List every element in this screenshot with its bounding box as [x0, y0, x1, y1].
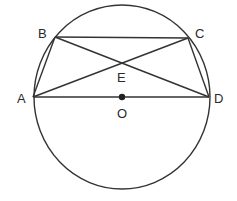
- label-d: D: [214, 91, 223, 106]
- segment-bc: [55, 37, 188, 38]
- diagonal-ac: [33, 38, 188, 97]
- diagonal-bd: [55, 37, 209, 97]
- segment-ab: [33, 37, 55, 97]
- label-o: O: [117, 106, 127, 121]
- center-point-o: [119, 94, 125, 100]
- label-c: C: [195, 26, 204, 41]
- label-a: A: [17, 91, 26, 106]
- circle-geometry-diagram: B C A D E O: [0, 0, 237, 201]
- label-e: E: [117, 70, 126, 85]
- label-b: B: [38, 26, 47, 41]
